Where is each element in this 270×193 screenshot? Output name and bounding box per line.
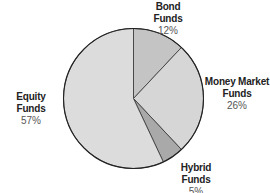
label-name: Funds [204,88,270,100]
label-name: Bond Funds [140,1,196,25]
label-equity-funds: Equity Funds 57% [2,91,60,127]
label-name: Money Market [204,76,270,88]
label-money-market-funds: Money Market Funds 26% [204,76,270,112]
label-percent: 57% [2,115,60,127]
label-percent: 26% [204,100,270,112]
label-percent: 5% [166,186,226,193]
label-name: Hybrid Funds [166,162,226,186]
label-percent: 12% [140,25,196,37]
label-hybrid-funds: Hybrid Funds 5% [166,162,226,193]
label-name: Equity Funds [2,91,60,115]
label-bond-funds: Bond Funds 12% [140,1,196,37]
